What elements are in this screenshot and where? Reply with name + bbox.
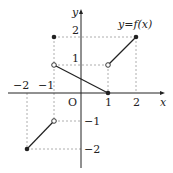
y-axis-arrow-icon — [79, 9, 83, 14]
isolated-point — [52, 35, 57, 40]
x-tick-label: −2 — [13, 79, 29, 92]
x-tick-label: −1 — [38, 79, 54, 92]
origin-label: O — [68, 96, 77, 109]
y-tick-label: −1 — [84, 115, 100, 128]
x-tick-label: 1 — [105, 96, 112, 109]
open-point — [52, 119, 57, 124]
y-tick-label: 2 — [72, 24, 79, 37]
y-tick-label: 1 — [72, 52, 79, 65]
open-point — [106, 63, 111, 68]
x-axis-label: x — [160, 96, 167, 109]
function-graph: y x y=f(x) O −2 −1 1 2 2 1 −1 −2 — [0, 0, 173, 173]
segment-1 — [27, 121, 54, 149]
y-tick-label: −2 — [84, 143, 100, 156]
open-point — [52, 63, 57, 68]
x-axis-arrow-icon — [160, 91, 165, 95]
closed-point — [25, 147, 30, 152]
closed-point — [134, 35, 139, 40]
y-axis-label: y — [71, 6, 79, 19]
x-tick-label: 2 — [133, 96, 140, 109]
function-label: y=f(x) — [117, 18, 152, 31]
segment-3 — [108, 37, 136, 65]
closed-point — [106, 91, 111, 96]
